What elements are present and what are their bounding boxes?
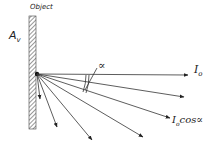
intensity-cos-label: Iocos∝ — [172, 114, 203, 127]
object-wall — [29, 16, 36, 129]
ray-5 — [37, 74, 92, 140]
angle-label: ∝ — [98, 59, 105, 72]
intensity-normal-label: Io — [194, 63, 203, 78]
angle-arc-icon — [83, 68, 97, 93]
object-label: Object — [30, 3, 53, 11]
ray-2 — [37, 74, 184, 97]
radiation-rays — [37, 74, 188, 140]
area-label: Av — [9, 29, 21, 44]
ray-alpha — [37, 74, 170, 118]
ray-4 — [37, 74, 143, 137]
diagram-canvas — [0, 0, 214, 156]
ray-6 — [37, 74, 57, 127]
ray-normal — [37, 74, 188, 75]
